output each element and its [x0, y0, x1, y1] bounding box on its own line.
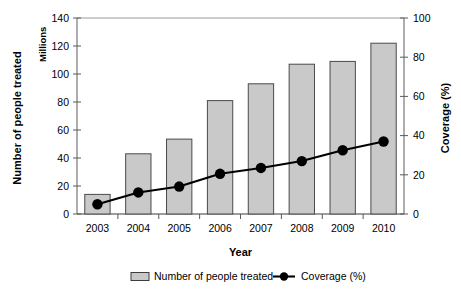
x-tick-label: 2008: [290, 222, 314, 234]
legend-label-treated: Number of people treated: [154, 270, 273, 282]
bar: [289, 64, 314, 214]
legend-swatch-bar: [131, 273, 149, 281]
x-axis-ticks: 20032004200520062007200820092010: [86, 214, 396, 234]
bar-series: [85, 43, 396, 214]
bar: [248, 84, 273, 214]
x-tick-label: 2005: [168, 222, 192, 234]
combo-chart: 0204060801001201400204060801002003200420…: [0, 0, 461, 297]
left-tick-label: 100: [51, 68, 69, 80]
left-tick-label: 120: [51, 40, 69, 52]
left-tick-label: 0: [63, 208, 69, 220]
bar: [330, 61, 355, 214]
right-tick-label: 20: [413, 169, 425, 181]
x-tick-label: 2010: [372, 222, 396, 234]
left-tick-label: 60: [57, 124, 69, 136]
chart-legend: Number of people treatedCoverage (%): [131, 270, 366, 282]
right-tick-label: 100: [413, 12, 431, 24]
data-point-marker: [174, 181, 184, 191]
data-point-marker: [215, 169, 225, 179]
data-point-marker: [297, 156, 307, 166]
right-tick-label: 80: [413, 51, 425, 63]
data-point-marker: [133, 187, 143, 197]
left-tick-label: 20: [57, 180, 69, 192]
right-axis-title: Coverage (%): [439, 83, 451, 154]
data-point-marker: [337, 145, 347, 155]
legend-swatch-marker: [280, 272, 288, 280]
bar: [207, 101, 232, 214]
x-axis-title: Year: [229, 246, 253, 258]
x-tick-label: 2009: [331, 222, 355, 234]
bar: [167, 139, 192, 214]
x-tick-label: 2004: [127, 222, 151, 234]
right-axis-ticks: 020406080100: [400, 12, 431, 220]
data-point-marker: [378, 136, 388, 146]
x-tick-label: 2006: [208, 222, 232, 234]
right-tick-label: 40: [413, 129, 425, 141]
right-tick-label: 0: [413, 208, 419, 220]
left-tick-label: 40: [57, 152, 69, 164]
left-tick-label: 140: [51, 12, 69, 24]
chart-container: 0204060801001201400204060801002003200420…: [0, 0, 461, 297]
bar: [371, 43, 396, 214]
x-tick-label: 2007: [249, 222, 273, 234]
left-axis-unit-label: Millions: [37, 27, 48, 62]
left-tick-label: 80: [57, 96, 69, 108]
x-tick-label: 2003: [86, 222, 110, 234]
right-tick-label: 60: [413, 90, 425, 102]
left-axis-title: Number of people treated: [11, 51, 23, 184]
bar: [126, 154, 151, 214]
legend-label-coverage: Coverage (%): [301, 270, 366, 282]
data-point-marker: [256, 163, 266, 173]
data-point-marker: [92, 199, 102, 209]
